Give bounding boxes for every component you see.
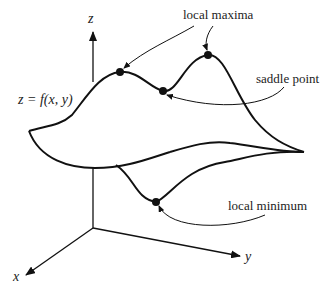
local-maxima-label: local maxima <box>183 7 254 22</box>
x-axis <box>26 228 93 275</box>
y-axis-label: y <box>243 249 252 264</box>
critical-points <box>116 51 212 206</box>
z-axis-label: z <box>87 11 94 26</box>
y-axis <box>93 228 240 256</box>
local-max-point-2 <box>204 51 212 59</box>
local-max-point-1 <box>116 68 124 76</box>
leader-saddle <box>167 87 284 105</box>
axes <box>26 32 240 275</box>
surface-diagram: z y x z = f(x, y) local maxima saddle po… <box>0 0 334 296</box>
local-minimum-label: local minimum <box>228 198 307 213</box>
leader-max-2 <box>206 26 213 50</box>
saddle-point-label: saddle point <box>256 71 320 86</box>
equation-label: z = f(x, y) <box>17 92 73 108</box>
surface-fold-right <box>156 152 304 202</box>
local-min-point <box>152 198 160 206</box>
saddle-point-dot <box>159 87 167 95</box>
surface-front-edge <box>29 131 170 168</box>
surface-fold-left <box>116 165 156 202</box>
leader-max-1 <box>124 26 194 68</box>
x-axis-label: x <box>12 269 20 284</box>
